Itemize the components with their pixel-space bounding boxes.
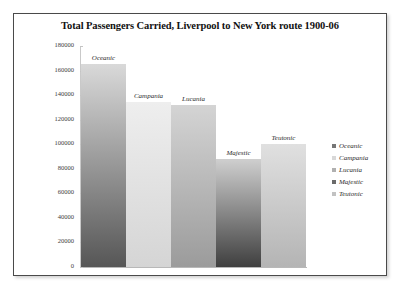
legend-swatch-icon [332, 192, 336, 196]
y-axis-tick-label: 80000 [58, 164, 74, 171]
bar-lucania: Lucania [171, 105, 216, 267]
bar-label: Lucania [182, 95, 205, 103]
bar-oceanic: Oceanic [81, 64, 126, 267]
legend-swatch-icon [332, 168, 336, 172]
y-axis-tick-label: 180000 [55, 41, 75, 48]
legend-swatch-icon [332, 180, 336, 184]
plot-area: OceanicCampaniaLucaniaMajesticTeutonic [81, 46, 306, 267]
legend-swatch-icon [332, 156, 336, 160]
y-axis-tick-mark [80, 267, 83, 268]
bar-majestic: Majestic [216, 159, 261, 267]
legend-swatch-icon [332, 144, 336, 148]
y-axis-tick-label: 120000 [55, 115, 75, 122]
legend-item-teutonic[interactable]: Teutonic [332, 188, 392, 200]
chart-frame: Total Passengers Carried, Liverpool to N… [13, 13, 387, 276]
legend-item-label: Teutonic [339, 190, 363, 198]
bar-campania: Campania [126, 102, 171, 267]
y-axis-tick-label: 0 [71, 262, 74, 269]
legend-item-campania[interactable]: Campania [332, 152, 392, 164]
bar-label: Majestic [226, 149, 250, 157]
bar-label: Teutonic [272, 134, 296, 142]
y-axis-tick-label: 160000 [55, 66, 75, 73]
y-axis-tick-label: 40000 [58, 213, 74, 220]
legend-item-majestic[interactable]: Majestic [332, 176, 392, 188]
chart-legend: OceanicCampaniaLucaniaMajesticTeutonic [332, 140, 392, 200]
bar-teutonic: Teutonic [261, 144, 306, 267]
y-axis-tick-label: 140000 [55, 90, 75, 97]
y-axis-tick-label: 20000 [58, 237, 74, 244]
legend-item-label: Oceanic [339, 142, 362, 150]
x-axis-baseline [80, 267, 307, 268]
y-axis-tick-label: 60000 [58, 188, 74, 195]
bar-label: Campania [134, 92, 163, 100]
legend-item-label: Campania [339, 154, 368, 162]
legend-item-label: Lucania [339, 166, 362, 174]
chart-title: Total Passengers Carried, Liverpool to N… [14, 20, 386, 31]
legend-item-lucania[interactable]: Lucania [332, 164, 392, 176]
legend-item-oceanic[interactable]: Oceanic [332, 140, 392, 152]
bar-label: Oceanic [92, 54, 115, 62]
legend-item-label: Majestic [339, 178, 363, 186]
y-axis-tick-label: 100000 [55, 139, 75, 146]
